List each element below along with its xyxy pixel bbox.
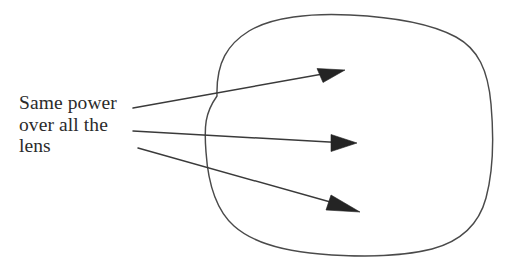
- ray-bottom-arrowhead: [326, 195, 360, 212]
- ray-bottom: [138, 148, 360, 212]
- ray-top-arrowhead: [317, 69, 345, 83]
- ray-middle: [133, 131, 357, 152]
- ray-middle-shaft: [133, 131, 338, 143]
- caption-line-1: Same power: [19, 92, 144, 114]
- lens-outline: [205, 15, 492, 256]
- ray-top: [133, 69, 345, 109]
- same-power-label: Same power over all the lens: [19, 92, 144, 157]
- caption-line-2: over all the: [19, 114, 144, 136]
- ray-top-shaft: [133, 72, 334, 108]
- caption-line-3: lens: [19, 135, 144, 157]
- ray-bottom-shaft: [138, 148, 341, 205]
- ray-middle-arrowhead: [331, 135, 357, 152]
- lens-power-figure: Same power over all the lens: [0, 0, 521, 267]
